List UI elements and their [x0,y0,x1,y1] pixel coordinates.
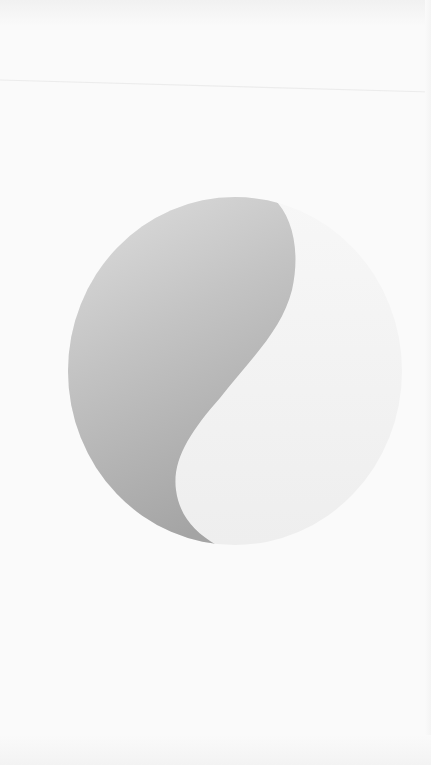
edge-shadow [425,0,431,765]
yin-yang-logo-icon [0,0,431,765]
navigation-bar-area [0,735,431,765]
splash-screen: circle split by S-curve [0,0,431,765]
